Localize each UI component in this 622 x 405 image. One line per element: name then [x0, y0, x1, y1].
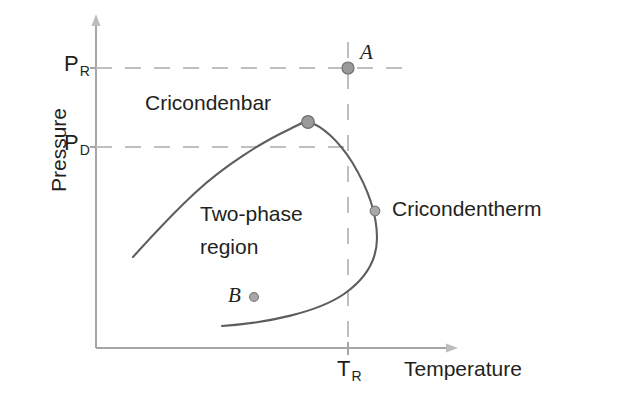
- x-tick-tr-subscript: R: [351, 368, 361, 384]
- two-phase-region-label-line1: Two-phase: [200, 203, 303, 224]
- y-tick-pr-base: P: [64, 51, 79, 76]
- y-axis: [92, 14, 101, 348]
- y-tick-pd-base: P: [64, 130, 79, 155]
- two-phase-region-label-line2: region: [200, 236, 258, 257]
- cricondenbar-label: Cricondenbar: [145, 92, 271, 113]
- point-b-marker: [250, 293, 259, 302]
- y-tick-label-pr: PR: [64, 53, 89, 75]
- point-a-marker: [342, 62, 354, 74]
- y-tick-pr-subscript: R: [80, 63, 90, 79]
- cricondenbar-point-marker: [302, 116, 315, 129]
- point-b-label: B: [228, 285, 241, 306]
- y-tick-label-pd: PD: [64, 132, 89, 154]
- x-axis-title: Temperature: [404, 358, 522, 379]
- cricondentherm-point-marker: [370, 206, 380, 216]
- phase-diagram-figure: Pressure Temperature PR PD TR Cricondenb…: [0, 0, 622, 405]
- x-axis: [96, 344, 458, 353]
- cricondentherm-label: Cricondentherm: [392, 198, 541, 219]
- x-tick-label-tr: TR: [337, 358, 361, 380]
- x-tick-tr-base: T: [337, 356, 350, 381]
- y-tick-pd-subscript: D: [80, 142, 90, 158]
- point-a-label: A: [360, 42, 373, 63]
